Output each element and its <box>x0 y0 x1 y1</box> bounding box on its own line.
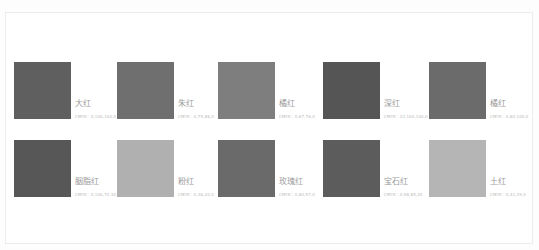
swatch-card: 朱红 CMYK：0,75,88,0 <box>117 62 217 122</box>
swatch-cmyk: CMYK：22,100,100,0 <box>384 113 428 119</box>
swatch-name: 宝石红 <box>384 175 408 186</box>
swatch-card: 粉红 CMYK：0,36,20,0 <box>117 140 217 200</box>
swatch-cmyk: CMYK：0,75,88,0 <box>178 113 214 119</box>
color-swatch[interactable] <box>14 140 71 197</box>
swatch-cmyk: CMYK：0,80,100,0 <box>490 113 528 119</box>
color-swatch[interactable] <box>429 62 486 119</box>
swatch-cmyk: CMYK：0,100,100,0 <box>75 113 116 119</box>
swatch-card: 深红 CMYK：22,100,100,0 <box>323 62 423 122</box>
swatch-card: 橘红 CMYK：0,80,100,0 <box>429 62 529 122</box>
color-swatch[interactable] <box>14 62 71 119</box>
color-swatch[interactable] <box>218 140 275 197</box>
swatch-card: 胭脂红 CMYK：0,100,70,30 <box>14 140 114 200</box>
swatch-name: 橘红 <box>490 97 506 108</box>
swatch-name: 朱红 <box>178 97 194 108</box>
swatch-cmyk: CMYK：0,100,70,30 <box>75 191 116 197</box>
swatch-name: 深红 <box>384 97 400 108</box>
color-swatch[interactable] <box>429 140 486 197</box>
swatch-card: 大红 CMYK：0,100,100,0 <box>14 62 114 122</box>
swatch-cmyk: CMYK：0,98,85,20 <box>384 191 422 197</box>
swatch-card: 玫瑰红 CMYK：0,80,57,0 <box>218 140 318 200</box>
color-swatch[interactable] <box>323 62 380 119</box>
swatch-name: 粉红 <box>178 175 194 186</box>
color-swatch[interactable] <box>117 140 174 197</box>
swatch-cmyk: CMYK：0,67,76,0 <box>279 113 315 119</box>
swatch-card: 土红 CMYK：0,42,29,0 <box>429 140 529 200</box>
swatch-name: 橘红 <box>279 97 295 108</box>
color-swatch[interactable] <box>218 62 275 119</box>
swatch-name: 玫瑰红 <box>279 175 303 186</box>
palette-panel <box>5 12 533 244</box>
swatch-cmyk: CMYK：0,36,20,0 <box>178 191 214 197</box>
swatch-card: 橘红 CMYK：0,67,76,0 <box>218 62 318 122</box>
swatch-name: 胭脂红 <box>75 175 99 186</box>
swatch-card: 宝石红 CMYK：0,98,85,20 <box>323 140 423 200</box>
swatch-cmyk: CMYK：0,42,29,0 <box>490 191 526 197</box>
swatch-name: 大红 <box>75 97 91 108</box>
color-swatch[interactable] <box>323 140 380 197</box>
color-swatch[interactable] <box>117 62 174 119</box>
swatch-cmyk: CMYK：0,80,57,0 <box>279 191 315 197</box>
swatch-name: 土红 <box>490 175 506 186</box>
